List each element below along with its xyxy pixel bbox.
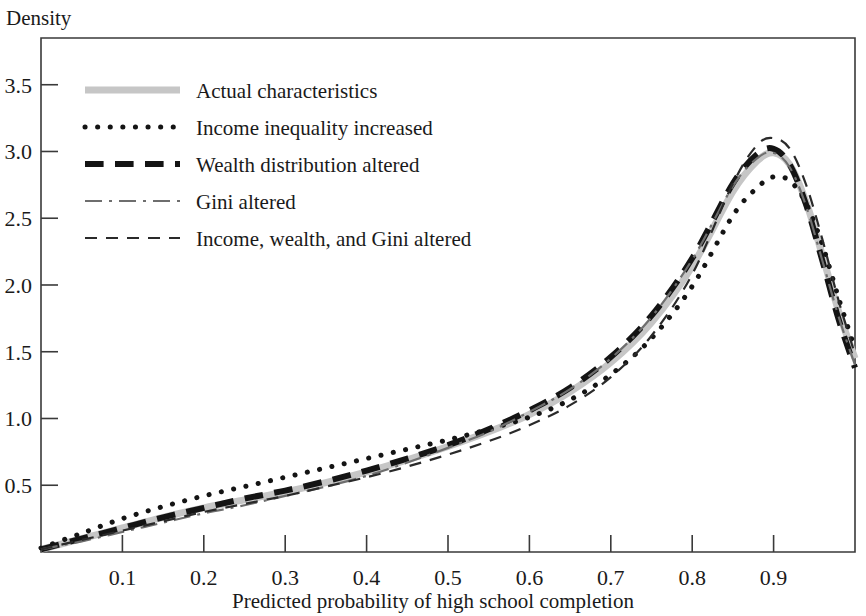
y-tick-label: 3.0 bbox=[5, 139, 33, 164]
density-curve bbox=[41, 138, 855, 550]
y-tick-label: 1.5 bbox=[5, 340, 33, 365]
legend-label: Income inequality increased bbox=[196, 116, 433, 140]
y-tick-label: 3.5 bbox=[5, 73, 33, 98]
chart-legend: Actual characteristicsIncome inequality … bbox=[85, 79, 472, 251]
plot-frame bbox=[41, 38, 855, 552]
y-axis-ticks: 0.51.01.52.02.53.03.5 bbox=[5, 73, 59, 499]
x-axis-title: Predicted probability of high school com… bbox=[232, 589, 634, 613]
x-tick-label: 0.2 bbox=[190, 565, 218, 590]
x-tick-label: 0.9 bbox=[760, 565, 788, 590]
legend-label: Actual characteristics bbox=[196, 79, 377, 103]
y-tick-label: 2.5 bbox=[5, 206, 33, 231]
x-axis-ticks: 0.10.20.30.40.50.60.70.80.9 bbox=[109, 535, 788, 590]
x-tick-label: 0.5 bbox=[434, 565, 462, 590]
y-tick-label: 2.0 bbox=[5, 273, 33, 298]
density-curves bbox=[41, 138, 855, 550]
density-curve bbox=[41, 152, 855, 549]
x-tick-label: 0.7 bbox=[597, 565, 625, 590]
density-curve bbox=[41, 153, 855, 550]
legend-label: Income, wealth, and Gini altered bbox=[196, 227, 472, 251]
y-axis-title: Density bbox=[6, 6, 72, 30]
x-tick-label: 0.3 bbox=[271, 565, 299, 590]
x-tick-label: 0.8 bbox=[678, 565, 706, 590]
y-tick-label: 0.5 bbox=[5, 473, 33, 498]
legend-label: Gini altered bbox=[196, 190, 296, 214]
legend-label: Wealth distribution altered bbox=[196, 153, 420, 177]
x-tick-label: 0.6 bbox=[516, 565, 544, 590]
density-chart: Density 0.51.01.52.02.53.03.5 0.10.20.30… bbox=[0, 0, 866, 616]
x-tick-label: 0.4 bbox=[353, 565, 381, 590]
density-curve bbox=[41, 148, 855, 549]
y-tick-label: 1.0 bbox=[5, 406, 33, 431]
x-tick-label: 0.1 bbox=[109, 565, 137, 590]
